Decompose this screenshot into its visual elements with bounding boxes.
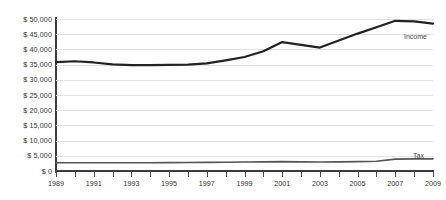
income-series-label: Income [404,33,427,40]
x-tick [245,172,246,177]
x-tick-label: 2009 [425,180,441,187]
x-tick [320,172,321,177]
x-tick-label: 2005 [350,180,366,187]
y-tick-label: $ 30,000 [23,76,52,83]
y-tick-label: $ 10,000 [23,137,52,144]
x-tick [376,172,377,177]
income-series-line [56,21,433,65]
x-tick [56,172,57,177]
x-tick [301,172,302,177]
x-tick [150,172,151,177]
x-tick-label: 1997 [199,180,215,187]
x-tick [282,172,283,177]
x-tick [358,172,359,177]
x-tick-label: 2003 [312,180,328,187]
tax-series-line [56,159,433,163]
x-tick-label: 1991 [86,180,102,187]
x-tick [131,172,132,177]
y-tick-label: $ 35,000 [23,61,52,68]
tax-series-label: Tax [413,152,424,159]
x-tick-label: 2007 [387,180,403,187]
y-axis-labels: $ 50,000$ 45,000$ 40,000$ 35,000$ 30,000… [0,0,52,200]
x-tick-label: 1995 [161,180,177,187]
x-tick [339,172,340,177]
y-tick-label: $ 20,000 [23,107,52,114]
income-tax-line-chart: $ 50,000$ 45,000$ 40,000$ 35,000$ 30,000… [0,0,446,200]
x-tick-label: 1999 [237,180,253,187]
series-lines [56,19,433,171]
x-tick [113,172,114,177]
x-tick [433,172,434,177]
y-tick-label: $ 45,000 [23,31,52,38]
x-tick [75,172,76,177]
y-tick-label: $ 5,000 [27,152,52,159]
y-tick-label: $ 0 [42,168,52,175]
x-tick [263,172,264,177]
x-tick [207,172,208,177]
x-tick [226,172,227,177]
y-tick-label: $ 15,000 [23,122,52,129]
x-tick [188,172,189,177]
y-tick-label: $ 40,000 [23,46,52,53]
y-tick-label: $ 25,000 [23,92,52,99]
x-tick [395,172,396,177]
x-tick [169,172,170,177]
x-tick-label: 1989 [48,180,64,187]
x-tick [94,172,95,177]
x-tick [414,172,415,177]
x-tick-label: 1993 [123,180,139,187]
x-tick-label: 2001 [274,180,290,187]
y-tick-label: $ 50,000 [23,16,52,23]
plot-area [56,19,433,171]
